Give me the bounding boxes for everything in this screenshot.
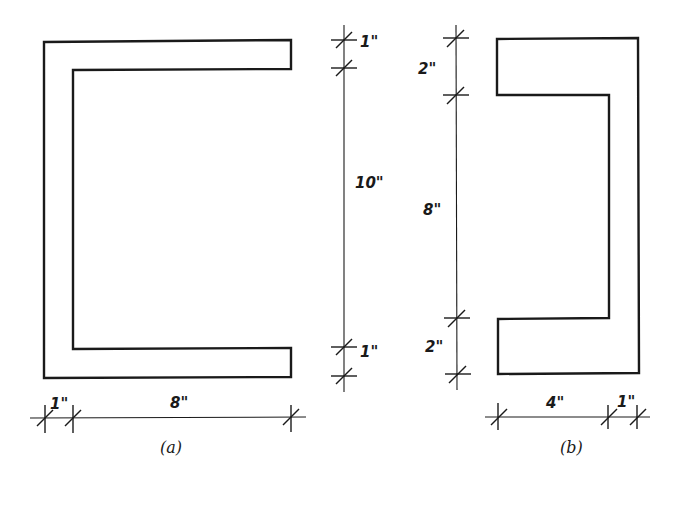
figure-b-channel-section	[497, 38, 639, 374]
figure-a-web-height-label: 10"	[355, 176, 384, 191]
figure-a-vertical-dimension	[331, 25, 357, 392]
figure-a-caption: (a)	[160, 440, 182, 456]
figure-b-outline	[497, 38, 639, 374]
diagram-canvas	[0, 0, 686, 506]
figure-b-top-flange-height-label: 2"	[418, 62, 436, 77]
figure-a-horizontal-dimension	[30, 405, 306, 433]
figure-a-bottom-flange-thickness-label: 1"	[360, 345, 378, 360]
figure-a-web-thickness-label: 1"	[50, 397, 68, 412]
figure-b-web-thickness-label: 1"	[617, 395, 635, 410]
figure-a-top-flange-thickness-label: 1"	[360, 35, 378, 50]
figure-b-web-clear-height-label: 8"	[423, 203, 441, 218]
figure-a-channel-section	[44, 40, 291, 378]
figure-a-outline	[44, 40, 291, 378]
figure-a-flange-length-label: 8"	[170, 396, 188, 411]
figure-b-vertical-dimension	[443, 25, 471, 390]
figure-b-flange-length-label: 4"	[546, 396, 564, 411]
figure-b-caption: (b)	[560, 440, 583, 456]
figure-b-bottom-flange-height-label: 2"	[425, 340, 443, 355]
